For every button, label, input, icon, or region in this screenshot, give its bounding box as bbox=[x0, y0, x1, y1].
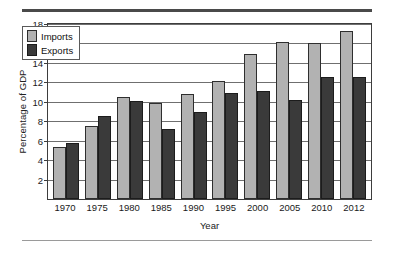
x-tick-label-1995: 1995 bbox=[209, 202, 241, 218]
x-tick-label-1990: 1990 bbox=[177, 202, 209, 218]
bar-exports-1975[interactable] bbox=[98, 116, 111, 199]
bottom-divider-rule bbox=[22, 240, 372, 241]
y-tick-mark bbox=[44, 63, 48, 64]
bar-exports-1970[interactable] bbox=[66, 143, 79, 199]
bar-imports-2010[interactable] bbox=[308, 43, 321, 199]
bar-exports-1980[interactable] bbox=[130, 101, 143, 199]
bar-imports-2005[interactable] bbox=[276, 42, 289, 199]
bar-exports-1985[interactable] bbox=[162, 129, 175, 199]
y-tick-mark bbox=[44, 102, 48, 103]
x-axis-ticks: 1970197519801985199019952000200520102012 bbox=[47, 202, 372, 218]
x-tick-label-2010: 2010 bbox=[306, 202, 338, 218]
bar-imports-1975[interactable] bbox=[85, 126, 98, 199]
y-tick-label: 4 bbox=[38, 155, 43, 166]
bar-exports-1990[interactable] bbox=[194, 112, 207, 199]
y-tick-mark bbox=[44, 160, 48, 161]
plot-area: 24681012141618 bbox=[47, 23, 372, 200]
y-tick-label: 8 bbox=[38, 116, 43, 127]
bar-exports-2005[interactable] bbox=[289, 100, 302, 199]
legend-item-imports[interactable]: Imports bbox=[27, 30, 73, 42]
bar-group bbox=[337, 24, 369, 199]
y-tick-label: 2 bbox=[38, 174, 43, 185]
x-tick-label-1975: 1975 bbox=[81, 202, 113, 218]
bar-group bbox=[305, 24, 337, 199]
x-tick-label-2000: 2000 bbox=[242, 202, 274, 218]
chart-figure: Percentage of GDP 24681012141618 Imports… bbox=[0, 14, 394, 238]
bar-imports-1995[interactable] bbox=[212, 81, 225, 199]
bar-imports-2000[interactable] bbox=[244, 54, 257, 199]
bar-imports-1970[interactable] bbox=[53, 147, 66, 200]
bar-group bbox=[273, 24, 305, 199]
bar-group bbox=[210, 24, 242, 199]
chart-legend: ImportsExports bbox=[22, 26, 80, 60]
bar-exports-2000[interactable] bbox=[257, 91, 270, 199]
bar-groups bbox=[48, 24, 371, 199]
bar-imports-1990[interactable] bbox=[181, 94, 194, 199]
y-tick-mark bbox=[44, 24, 48, 25]
legend-swatch-exports-icon bbox=[27, 44, 37, 56]
x-tick-label-1980: 1980 bbox=[113, 202, 145, 218]
y-tick-mark bbox=[44, 180, 48, 181]
x-tick-label-1985: 1985 bbox=[145, 202, 177, 218]
y-tick-mark bbox=[44, 121, 48, 122]
y-tick-label: 10 bbox=[32, 96, 43, 107]
legend-label: Imports bbox=[41, 31, 73, 42]
bar-exports-2010[interactable] bbox=[321, 77, 334, 199]
y-tick-label: 12 bbox=[32, 77, 43, 88]
bar-exports-2012[interactable] bbox=[353, 77, 366, 200]
bar-imports-2012[interactable] bbox=[340, 31, 353, 199]
bar-group bbox=[241, 24, 273, 199]
y-tick-label: 6 bbox=[38, 135, 43, 146]
y-axis-title: Percentage of GDP bbox=[17, 52, 28, 172]
x-tick-label-2005: 2005 bbox=[274, 202, 306, 218]
legend-label: Exports bbox=[41, 45, 73, 56]
bar-group bbox=[178, 24, 210, 199]
legend-item-exports[interactable]: Exports bbox=[27, 44, 73, 56]
bar-exports-1995[interactable] bbox=[225, 93, 238, 199]
top-divider-rule bbox=[22, 9, 372, 12]
x-axis-title: Year bbox=[47, 220, 372, 231]
bar-group bbox=[146, 24, 178, 199]
y-tick-mark bbox=[44, 82, 48, 83]
bar-imports-1980[interactable] bbox=[117, 97, 130, 199]
bar-imports-1985[interactable] bbox=[149, 103, 162, 199]
y-tick-mark bbox=[44, 141, 48, 142]
x-tick-label-1970: 1970 bbox=[49, 202, 81, 218]
bar-group bbox=[82, 24, 114, 199]
plot-inner bbox=[48, 24, 371, 199]
legend-swatch-imports-icon bbox=[27, 30, 37, 42]
bar-group bbox=[114, 24, 146, 199]
x-tick-label-2012: 2012 bbox=[338, 202, 370, 218]
